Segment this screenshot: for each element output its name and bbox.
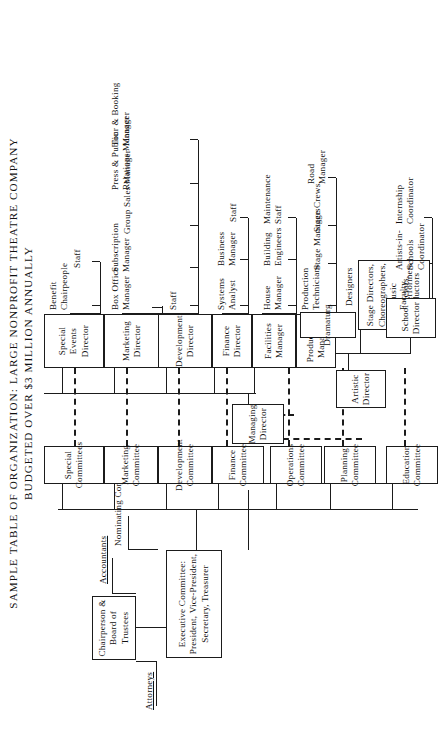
dashed-finance-to-findir (226, 368, 228, 446)
node-faculty[interactable]: Faculty (398, 268, 409, 310)
node-tour-booking-manager[interactable]: Tour & Booking Manager (110, 72, 132, 146)
node-planning-committee[interactable]: Planning Committee (324, 446, 376, 484)
node-accountants[interactable]: Accountants (98, 522, 109, 584)
node-board[interactable]: Chairperson & Board of Trustees (92, 596, 136, 660)
edge-systems-stub (240, 305, 248, 306)
edge-spine-fac-mgr (254, 368, 255, 394)
node-operations-committee[interactable]: Operations Committee (270, 446, 322, 484)
edge-accountants-v (112, 593, 136, 594)
edge-art-to-stagedirs (360, 330, 361, 354)
edge-groupsales-stub (190, 225, 198, 226)
edge-roadmgr-stub (328, 177, 336, 178)
edge-business-stub (240, 259, 248, 260)
edge-devstaff-stub (152, 307, 162, 308)
node-school-director[interactable]: School Director (386, 298, 436, 338)
edge-attorneys-h (156, 661, 157, 706)
node-marketing-committee[interactable]: Marketing Committee (104, 446, 158, 484)
edge-exec-managing (248, 490, 249, 550)
node-benefit-chairpeople[interactable]: Benefit Chairpeople (48, 258, 70, 310)
node-attorneys[interactable]: Attorneys (144, 660, 155, 710)
edge-exec-to-spine (196, 510, 197, 550)
edge-art-to-school (348, 353, 410, 354)
committee-spine (58, 509, 418, 510)
node-development-committee[interactable]: Development Committee (158, 446, 212, 484)
node-facilities-manager[interactable]: Facilities Manager (252, 314, 296, 368)
edge-spine-finance (218, 484, 219, 510)
node-dramaturg[interactable]: Dramaturg (300, 312, 356, 338)
edge-spine-fin-dir (214, 368, 215, 394)
node-internship-coordinator[interactable]: Internship Coordinator (394, 166, 416, 224)
node-road-manager[interactable]: Road Manager (306, 136, 328, 184)
edge-spine-operations (276, 484, 277, 510)
edge-housemgr-stub (288, 305, 296, 306)
node-business-manager[interactable]: Business Manager (216, 216, 238, 266)
node-house-manager[interactable]: House Manager (262, 262, 284, 310)
edge-buildeng-stub (288, 259, 296, 260)
edge-sedir-bus (100, 262, 101, 314)
node-finance-director[interactable]: Finance Director (212, 314, 252, 368)
node-designers[interactable]: Designers (344, 248, 355, 306)
edge-nominating-v (128, 549, 158, 550)
node-managing-director[interactable]: Managing Director (232, 404, 284, 444)
edge-accountants-h (112, 558, 113, 594)
page-title: SAMPLE TABLE OF ORGANIZATION: LARGE NONP… (6, 0, 36, 746)
node-finance-committee[interactable]: Finance Committee (212, 446, 264, 484)
node-special-events-director[interactable]: Special Events Director (44, 314, 104, 368)
edge-spine-development (166, 484, 167, 510)
node-development-director[interactable]: Development Director (158, 314, 212, 368)
edge-stagemgr-stub (328, 263, 336, 264)
edge-prod-bus (336, 178, 337, 314)
org-chart-stage: SAMPLE TABLE OF ORGANIZATION: LARGE NONP… (0, 0, 446, 746)
node-marketing-director[interactable]: Marketing Director (104, 314, 160, 368)
edge-tourbooking-stub (190, 139, 198, 140)
edge-sestaff-stub (92, 261, 100, 262)
node-artistic-director[interactable]: Artistic Director (336, 370, 386, 408)
node-systems-analyst[interactable]: Systems Analyst (216, 262, 238, 310)
node-development-staff[interactable]: Staff (168, 276, 179, 310)
dashed-education-to-schooldir (404, 368, 406, 446)
org-chart-canvas: SAMPLE TABLE OF ORGANIZATION: LARGE NONP… (0, 0, 446, 746)
edge-spine-se-dir (62, 368, 63, 394)
edge-board-exec (136, 627, 166, 628)
edge-boxoffice-stub (190, 305, 198, 306)
edge-presspr-stub (190, 183, 198, 184)
edge-spine-dev-dir (166, 368, 167, 394)
edge-nominating-h (128, 516, 129, 550)
dashed-special-to-sedir (74, 368, 76, 446)
edge-spine-education (392, 484, 393, 510)
edge-subscription-stub (190, 267, 198, 268)
title-line-1: SAMPLE TABLE OF ORGANIZATION: LARGE NONP… (6, 0, 21, 746)
node-education-committee[interactable]: Education Committee (386, 446, 438, 484)
edge-spine-mkt-dir (114, 368, 115, 394)
node-finance-staff[interactable]: Staff (228, 188, 239, 222)
edge-maintenance-stub (288, 217, 296, 218)
dashed-marketing-to-mktdir (126, 368, 128, 446)
node-maintenance-staff[interactable]: Maintenance Staff (262, 166, 284, 224)
edge-school-in (410, 338, 411, 354)
dashed-development-to-devdir (178, 368, 180, 446)
edge-benefit-stub (92, 305, 100, 306)
edge-artdir-out (348, 354, 349, 370)
title-line-2: BUDGETED OVER $3 MILLION ANNUALLY (21, 0, 36, 746)
edge-fac-bus (296, 218, 297, 314)
edge-finstaff-stub (240, 217, 248, 218)
node-special-committees[interactable]: Special Committees (44, 446, 104, 484)
edge-stagecrew-stub (328, 225, 336, 226)
dashed-operations-to-prodmgr (288, 368, 290, 446)
node-special-events-staff[interactable]: Staff (72, 234, 83, 268)
edge-spine-planning (330, 484, 331, 510)
edge-fin-bus (248, 218, 249, 314)
edge-mkt-bus (198, 140, 199, 314)
node-executive-committee[interactable]: Executive Committee: President, Vice-Pre… (166, 550, 222, 658)
